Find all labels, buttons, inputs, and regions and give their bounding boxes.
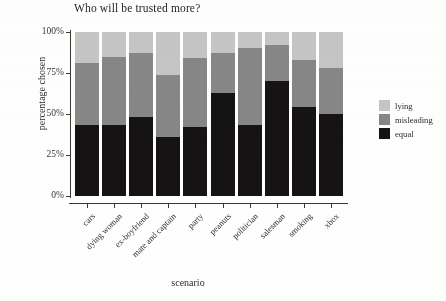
bar-segment-equal (238, 125, 262, 196)
bar-segment-lying (183, 32, 207, 58)
bar-segment-lying (129, 32, 153, 53)
x-tick-mark (277, 204, 278, 208)
x-tick-mark (114, 204, 115, 208)
y-tick-label: 75% (47, 67, 64, 77)
bar-segment-equal (319, 114, 343, 196)
y-tick-label: 100% (42, 26, 64, 36)
x-tick-mark (87, 204, 88, 208)
chart-title: Who will be trusted more? (74, 2, 200, 14)
bar-group (129, 32, 153, 196)
y-tick-mark (66, 73, 71, 74)
y-tick-label: 50% (47, 108, 64, 118)
y-axis-title: percentage chosen (36, 34, 47, 154)
bar-segment-lying (102, 32, 126, 57)
bar-segment-misleading (129, 53, 153, 117)
y-tick-mark (66, 155, 71, 156)
x-axis-line (69, 203, 348, 204)
x-axis-title: scenario (0, 277, 376, 288)
y-tick-mark (66, 32, 71, 33)
bars-layer (73, 32, 345, 196)
legend-item-misleading: misleading (379, 113, 433, 126)
y-tick-mark (66, 114, 71, 115)
legend-item-lying: lying (379, 99, 433, 112)
bar-segment-equal (211, 93, 235, 196)
bar-segment-misleading (319, 68, 343, 114)
bar-group (156, 32, 180, 196)
bar-group (319, 32, 343, 196)
x-tick-mark (304, 204, 305, 208)
x-tick-mark (195, 204, 196, 208)
bar-segment-lying (211, 32, 235, 53)
bar-segment-equal (102, 125, 126, 196)
bar-segment-equal (75, 125, 99, 196)
x-tick-mark (250, 204, 251, 208)
bar-segment-misleading (265, 45, 289, 81)
y-tick-label: 0% (51, 190, 64, 200)
chart-figure: Who will be trusted more? percentage cho… (0, 0, 446, 301)
bar-segment-equal (265, 81, 289, 196)
legend-label: lying (395, 101, 413, 111)
legend-swatch-lying (379, 100, 390, 111)
bar-segment-equal (292, 107, 316, 196)
legend-item-equal: equal (379, 127, 433, 140)
bar-segment-misleading (156, 75, 180, 137)
bar-group (75, 32, 99, 196)
plot-area (73, 32, 345, 196)
x-tick-mark (331, 204, 332, 208)
bar-segment-lying (156, 32, 180, 75)
x-tick-mark (223, 204, 224, 208)
bar-group (183, 32, 207, 196)
bar-segment-misleading (238, 48, 262, 125)
bar-segment-lying (265, 32, 289, 45)
bar-segment-equal (156, 137, 180, 196)
bar-segment-misleading (75, 63, 99, 125)
bar-group (292, 32, 316, 196)
bar-segment-misleading (183, 58, 207, 127)
bar-group (238, 32, 262, 196)
x-tick-mark (141, 204, 142, 208)
bar-segment-lying (292, 32, 316, 60)
chart-legend: lyingmisleadingequal (379, 99, 433, 141)
bar-segment-equal (129, 117, 153, 196)
bar-segment-lying (319, 32, 343, 68)
x-tick-mark (168, 204, 169, 208)
bar-segment-misleading (102, 57, 126, 126)
legend-swatch-misleading (379, 114, 390, 125)
bar-segment-misleading (211, 53, 235, 92)
bar-segment-lying (75, 32, 99, 63)
bar-segment-lying (238, 32, 262, 48)
legend-swatch-equal (379, 128, 390, 139)
bar-group (265, 32, 289, 196)
bar-group (102, 32, 126, 196)
bar-segment-equal (183, 127, 207, 196)
legend-label: misleading (395, 115, 433, 125)
bar-segment-misleading (292, 60, 316, 108)
bar-group (211, 32, 235, 196)
legend-label: equal (395, 129, 414, 139)
y-tick-mark (66, 196, 71, 197)
y-tick-label: 25% (47, 149, 64, 159)
